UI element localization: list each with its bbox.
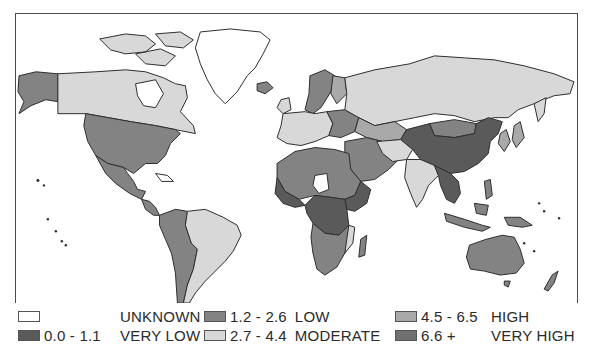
legend-item-moderate: 2.7 - 4.4 MODERATE: [204, 326, 380, 344]
region-scandinavia: [305, 70, 335, 114]
legend-label: MODERATE: [295, 327, 381, 344]
region-india: [405, 159, 439, 207]
region-central-africa: [305, 195, 349, 235]
region-uk: [277, 98, 291, 114]
region-central-america: [142, 199, 160, 215]
legend: UNKNOWN 0.0 - 1.1 VERY LOW 1.2 - 2.6 LOW…: [0, 307, 590, 353]
legend-range: 1.2 - 2.6: [230, 308, 287, 325]
legend-range: 4.5 - 6.5: [421, 308, 479, 325]
swatch-very-low: [18, 330, 40, 341]
region-papua: [504, 217, 532, 227]
swatch-high: [395, 311, 417, 322]
region-caribbean: [156, 173, 174, 181]
legend-item-high: 4.5 - 6.5 HIGH: [395, 307, 529, 325]
region-western-europe: [277, 112, 333, 146]
legend-label: VERY LOW: [120, 327, 200, 344]
region-tasmania: [504, 281, 510, 287]
world-map: [15, 13, 578, 303]
legend-label: LOW: [295, 308, 330, 325]
region-indonesia: [444, 203, 490, 231]
swatch-very-high: [395, 330, 417, 341]
region-japan: [498, 122, 524, 152]
region-finland: [331, 76, 347, 104]
region-canada-arctic: [100, 32, 194, 66]
legend-range: 6.6 +: [421, 327, 479, 344]
legend-item-low: 1.2 - 2.6 LOW: [204, 307, 330, 325]
legend-label: VERY HIGH: [491, 327, 575, 344]
region-greenland: [195, 29, 270, 104]
region-madagascar: [359, 235, 367, 257]
region-iceland: [257, 82, 273, 94]
legend-label: HIGH: [491, 308, 529, 325]
world-map-svg: [16, 14, 577, 303]
region-australia: [466, 235, 524, 275]
swatch-unknown: [18, 311, 40, 322]
region-philippines: [484, 179, 492, 199]
legend-range: 2.7 - 4.4: [230, 327, 287, 344]
swatch-low: [204, 311, 226, 322]
legend-range: 0.0 - 1.1: [44, 327, 114, 344]
region-alaska: [18, 72, 58, 114]
legend-item-very-low: 0.0 - 1.1 VERY LOW: [18, 326, 200, 344]
region-new-zealand: [544, 271, 558, 291]
swatch-moderate: [204, 330, 226, 341]
legend-label: UNKNOWN: [120, 308, 201, 325]
legend-item-unknown: UNKNOWN: [18, 307, 201, 325]
legend-item-very-high: 6.6 + VERY HIGH: [395, 326, 575, 344]
